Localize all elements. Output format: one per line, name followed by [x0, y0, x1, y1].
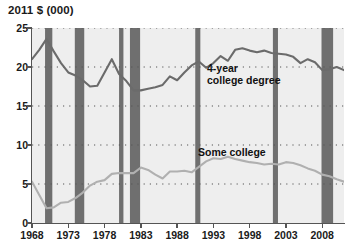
x-axis-tick-label: 1998 — [230, 230, 270, 241]
recession-band — [119, 28, 123, 223]
plot-area — [32, 28, 344, 223]
series-label-some-college: Some college — [198, 146, 266, 158]
recession-band — [195, 28, 200, 223]
x-axis-tick-label: 1978 — [85, 230, 125, 241]
y-axis-line — [31, 27, 32, 224]
y-axis-tick-mark — [27, 105, 32, 106]
series-label-four-year-college-degree: 4-year college degree — [207, 62, 281, 87]
x-axis-tick-mark — [68, 224, 69, 228]
x-axis-tick-label: 2008 — [302, 230, 342, 241]
x-axis-tick-label: 1983 — [121, 230, 161, 241]
recession-band — [273, 28, 278, 223]
y-axis-tick-mark — [27, 27, 32, 28]
y-axis-tick-label: 0 — [4, 218, 28, 229]
x-axis-tick-label: 1988 — [157, 230, 197, 241]
chart-figure: 2011 $ (000) 0510152025 4-year college d… — [0, 0, 352, 250]
chart-canvas — [32, 28, 344, 223]
y-axis-tick-label: 15 — [4, 101, 28, 112]
x-axis-tick-label: 2003 — [266, 230, 306, 241]
x-axis-tick-mark — [104, 224, 105, 228]
x-axis-tick-mark — [176, 224, 177, 228]
y-axis-tick-label: 5 — [4, 179, 28, 190]
recession-bands-group — [45, 28, 333, 223]
y-axis-tick-mark — [27, 144, 32, 145]
x-axis-tick-mark — [31, 224, 32, 228]
y-axis-tick-labels: 0510152025 — [0, 0, 28, 250]
recession-band — [322, 28, 334, 223]
x-axis-tick-mark — [249, 224, 250, 228]
y-axis-tick-mark — [27, 66, 32, 67]
x-axis-tick-mark — [140, 224, 141, 228]
x-axis-tick-mark — [213, 224, 214, 228]
x-axis-line — [31, 223, 345, 224]
y-axis-tick-label: 20 — [4, 62, 28, 73]
y-axis-tick-label: 10 — [4, 140, 28, 151]
y-axis-tick-label: 25 — [4, 23, 28, 34]
recession-band — [45, 28, 52, 223]
recession-band — [130, 28, 140, 223]
y-axis-tick-mark — [27, 183, 32, 184]
x-axis-tick-label: 1968 — [12, 230, 52, 241]
x-axis-tick-mark — [322, 224, 323, 228]
x-axis-tick-label: 1993 — [193, 230, 233, 241]
x-axis-tick-mark — [285, 224, 286, 228]
x-axis-tick-label: 1973 — [48, 230, 88, 241]
